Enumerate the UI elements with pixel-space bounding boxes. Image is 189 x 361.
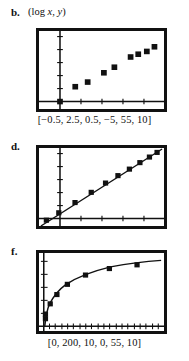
panel-f-label: f. [11, 245, 17, 257]
linear-regression-plot-d [39, 148, 164, 226]
data-markers-d [44, 150, 160, 223]
panel-f-caption: [0, 200, 10, 0, 55, 10] [0, 337, 189, 348]
panel-b-label: b. [11, 6, 20, 18]
panel-b-caption: [−0.5, 2.5, 0.5, −5, 55, 10] [0, 114, 189, 125]
calculator-screen-f [36, 250, 167, 334]
curve-path-f [45, 260, 161, 326]
data-markers-b [57, 44, 157, 104]
calculator-screen-b [36, 28, 167, 112]
logarithmic-curve-plot-f [39, 253, 164, 331]
scatter-plot-b [39, 31, 164, 109]
panel-d-label: d. [11, 140, 20, 152]
calculator-screen-d [36, 145, 167, 229]
panel-b-header: (log x, y) [28, 6, 66, 17]
